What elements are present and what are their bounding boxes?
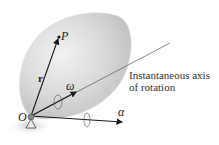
label-origin-o: O [18, 110, 27, 125]
label-omega: ω [66, 79, 74, 94]
label-alpha: α [118, 105, 124, 120]
axis-caption-line2: of rotation [129, 81, 210, 93]
label-point-p: P [61, 29, 68, 44]
axis-caption-line1: Instantaneous axis [129, 69, 210, 81]
label-vector-r: r [38, 72, 43, 84]
axis-caption: Instantaneous axis of rotation [129, 69, 210, 93]
